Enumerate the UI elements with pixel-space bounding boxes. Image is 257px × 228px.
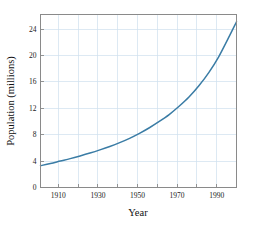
x-tick-label: 1990 bbox=[209, 191, 224, 200]
gridlines-group bbox=[41, 15, 237, 188]
y-tick-label: 24 bbox=[29, 25, 37, 34]
series-group bbox=[41, 22, 237, 166]
y-tick-label: 20 bbox=[29, 51, 37, 60]
x-tick-label: 1930 bbox=[90, 191, 105, 200]
x-tick-label-group: 19101930195019701990 bbox=[51, 191, 225, 200]
y-axis-title: Population (millions) bbox=[5, 56, 17, 146]
y-tick-label: 8 bbox=[33, 130, 37, 139]
y-tick-label: 0 bbox=[33, 183, 37, 192]
data-series-line bbox=[41, 22, 237, 166]
x-tick-label: 1950 bbox=[130, 191, 145, 200]
y-tick-label: 4 bbox=[33, 157, 37, 166]
y-tick-label-group: 04812162024 bbox=[29, 25, 37, 192]
x-tick-label: 1910 bbox=[51, 191, 66, 200]
x-axis-title: Year bbox=[128, 207, 148, 218]
x-tick-label: 1970 bbox=[170, 191, 185, 200]
y-tick-label: 16 bbox=[29, 77, 37, 86]
plot-frame bbox=[41, 15, 237, 188]
y-tick-label: 12 bbox=[29, 104, 37, 113]
chart-svg: 19101930195019701990 04812162024 Year Po… bbox=[0, 0, 257, 228]
population-line-chart: 19101930195019701990 04812162024 Year Po… bbox=[0, 0, 257, 228]
chart-screenshot: 19101930195019701990 04812162024 Year Po… bbox=[0, 0, 257, 228]
